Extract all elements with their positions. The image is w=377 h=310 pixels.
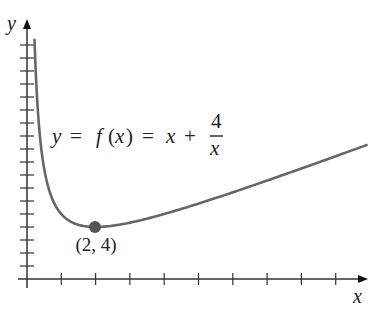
eq-denominator: x: [209, 136, 220, 160]
eq-paren-close: ): [126, 124, 133, 148]
eq-f: f: [96, 124, 105, 148]
eq-plus: +: [184, 124, 196, 148]
minimum-point-marker: [89, 221, 101, 233]
x-axis-label: x: [352, 285, 362, 307]
point-label: (2, 4): [75, 234, 116, 256]
eq-numerator: 4: [211, 109, 222, 133]
eq-equals-1: =: [70, 124, 82, 148]
x-axis-arrow-icon: [358, 275, 368, 283]
eq-term: x: [165, 124, 176, 148]
y-axis-label: y: [5, 12, 16, 35]
equation-annotation: y = f ( x ) = x + 4 x: [50, 109, 223, 160]
function-curve: [35, 40, 367, 227]
x-axis: [18, 273, 368, 285]
eq-equals-2: =: [142, 124, 154, 148]
y-axis: [20, 19, 34, 288]
y-axis-arrow-icon: [23, 19, 31, 29]
eq-paren-open: (: [108, 124, 115, 148]
eq-arg: x: [114, 124, 125, 148]
chart-canvas: y x (2, 4) y = f ( x ) = x + 4 x: [0, 0, 377, 310]
eq-lhs: y: [50, 124, 62, 148]
